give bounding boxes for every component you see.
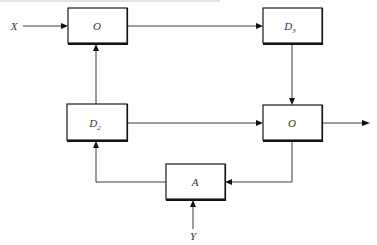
- block-label: O: [288, 117, 296, 129]
- block-d2: D2: [67, 104, 127, 141]
- input-y-label: Y: [190, 230, 198, 242]
- block-label: A: [191, 176, 199, 188]
- block-label: D: [283, 20, 292, 32]
- clipped-caption: [0, 0, 220, 2]
- arrowhead-icon: [256, 120, 263, 126]
- block-label: D: [88, 117, 97, 129]
- block-label: O: [93, 20, 101, 32]
- svg-text:A: A: [191, 176, 199, 188]
- block-subscript: 2: [97, 124, 101, 132]
- block-d3: D3: [263, 8, 322, 44]
- svg-text:O: O: [93, 20, 101, 32]
- block-o-top: O: [68, 8, 127, 44]
- wire-a-to-d2: [96, 146, 166, 182]
- svg-text:O: O: [288, 117, 296, 129]
- arrowhead-icon: [362, 120, 370, 126]
- block-o-mid: O: [263, 105, 322, 141]
- block-diagram: O D3 D2 O A X Y: [0, 0, 377, 245]
- block-subscript: 3: [291, 27, 296, 35]
- arrowhead-icon: [256, 23, 263, 29]
- input-x-label: X: [10, 20, 19, 32]
- arrowhead-icon: [289, 98, 295, 105]
- wire-o-to-a: [230, 141, 292, 182]
- block-a: A: [166, 164, 225, 200]
- arrowhead-icon: [61, 23, 68, 29]
